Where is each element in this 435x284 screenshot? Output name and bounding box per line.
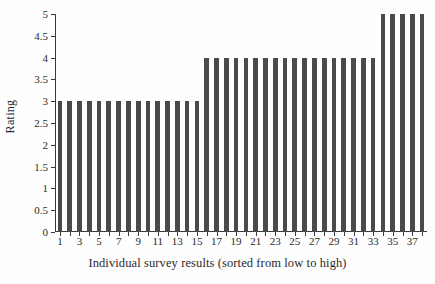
bar (273, 58, 278, 232)
bar (97, 101, 102, 232)
x-axis-tick-label: 23 (270, 236, 281, 247)
x-axis-title-text: Individual survey results (sorted from l… (88, 256, 346, 270)
x-axis-tick-label: 35 (387, 236, 398, 247)
bar (244, 58, 249, 232)
bar (341, 58, 346, 232)
plot-area (55, 14, 427, 232)
bar (214, 58, 219, 232)
bar (175, 101, 180, 232)
bar (146, 101, 151, 232)
bar (410, 14, 415, 232)
x-axis-tick-label: 13 (172, 236, 183, 247)
y-axis-tick-label: 1 (43, 183, 49, 194)
bar (58, 101, 63, 232)
bar (67, 101, 72, 232)
bar (136, 101, 141, 232)
bar-chart-figure: Rating 00.511.522.533.544.55 13579111315… (0, 0, 435, 284)
bar (302, 58, 307, 232)
y-axis-tick-label: 2 (43, 139, 49, 150)
y-axis-tick-label: 0 (43, 227, 49, 238)
bar (381, 14, 386, 232)
bar (116, 101, 121, 232)
bar (351, 58, 356, 232)
y-axis-tick-label: 4 (43, 52, 49, 63)
bar (253, 58, 258, 232)
bar (204, 58, 209, 232)
y-axis-tick-labels: 00.511.522.533.544.55 (20, 0, 48, 232)
x-axis-tick-label: 27 (309, 236, 320, 247)
bar (126, 101, 131, 232)
bar (292, 58, 297, 232)
bar (185, 101, 190, 232)
y-axis-tick-label: 1.5 (34, 161, 48, 172)
x-axis-tick-label: 1 (57, 236, 63, 247)
bar (234, 58, 239, 232)
bar (87, 101, 92, 232)
x-axis-tick-label: 7 (116, 236, 122, 247)
y-axis-tick-label: 3.5 (34, 74, 48, 85)
y-axis-tick-label: 4.5 (34, 30, 48, 41)
x-axis-title: Individual survey results (sorted from l… (0, 256, 435, 271)
x-axis-tick-label: 15 (191, 236, 202, 247)
bar (332, 58, 337, 232)
x-axis-tick-label: 11 (152, 236, 163, 247)
y-axis-title: Rating (2, 0, 20, 232)
y-axis-tick-label: 2.5 (34, 118, 48, 129)
x-axis-tick-label: 29 (329, 236, 340, 247)
bar (283, 58, 288, 232)
bar (263, 58, 268, 232)
x-axis-tick-label: 33 (368, 236, 379, 247)
y-axis-tick-label: 5 (43, 9, 49, 20)
bar (224, 58, 229, 232)
bar (155, 101, 160, 232)
bar (195, 101, 200, 232)
bar (400, 14, 405, 232)
bar (390, 14, 395, 232)
x-axis-tick-label: 9 (135, 236, 141, 247)
x-axis-tick-label: 3 (77, 236, 83, 247)
x-axis-tick-label: 31 (348, 236, 359, 247)
bar (165, 101, 170, 232)
bar (322, 58, 327, 232)
y-axis-title-text: Rating (4, 99, 19, 133)
x-axis-tick-labels: 135791113151719212325272931333537 (55, 236, 427, 252)
bar (420, 14, 425, 232)
y-axis-tick-label: 3 (43, 96, 49, 107)
bar-series (55, 14, 427, 232)
x-axis-tick-label: 5 (96, 236, 102, 247)
bar (77, 101, 82, 232)
y-axis-tick-label: 0.5 (34, 205, 48, 216)
bar (106, 101, 111, 232)
bar (371, 58, 376, 232)
x-axis-tick-label: 17 (211, 236, 222, 247)
bar (312, 58, 317, 232)
x-axis-tick-label: 21 (250, 236, 261, 247)
x-axis-tick-label: 25 (289, 236, 300, 247)
bar (361, 58, 366, 232)
x-axis-tick-label: 19 (231, 236, 242, 247)
y-axis-tick-mark (51, 232, 55, 233)
x-axis-tick-label: 37 (407, 236, 418, 247)
